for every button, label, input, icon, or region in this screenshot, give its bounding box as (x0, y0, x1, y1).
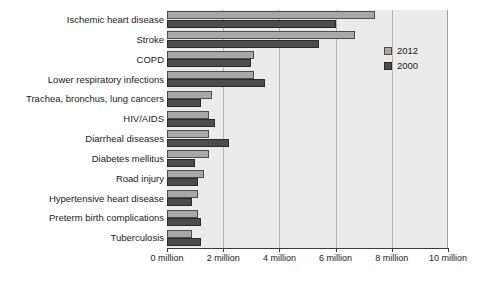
bar-2012-trachea-bronchus-lung-cancers[interactable] (167, 91, 212, 99)
bar-2012-preterm-birth-complications[interactable] (167, 210, 198, 218)
category-label: HIV/AIDS (123, 112, 164, 125)
bar-2012-road-injury[interactable] (167, 170, 204, 178)
chart-row: Diarrheal diseases (0, 129, 482, 149)
chart-row: Diabetes mellitus (0, 149, 482, 169)
category-label: Stroke (137, 33, 164, 46)
category-label: COPD (137, 53, 164, 66)
bar-2012-hypertensive-heart-disease[interactable] (167, 190, 198, 198)
bar-2000-lower-respiratory-infections[interactable] (167, 79, 265, 87)
bar-2012-copd[interactable] (167, 51, 254, 59)
chart-row: HIV/AIDS (0, 109, 482, 129)
bar-2012-diarrheal-diseases[interactable] (167, 130, 209, 138)
chart-row: Trachea, bronchus, lung cancers (0, 89, 482, 109)
bar-2000-diabetes-mellitus[interactable] (167, 159, 195, 167)
bar-2000-trachea-bronchus-lung-cancers[interactable] (167, 99, 201, 107)
bar-2000-ischemic-heart-disease[interactable] (167, 20, 336, 28)
bar-2012-stroke[interactable] (167, 31, 355, 39)
bar-2000-hypertensive-heart-disease[interactable] (167, 198, 192, 206)
dark-gray-swatch-icon (384, 62, 392, 70)
legend-item-2012[interactable]: 2012 (384, 44, 418, 57)
chart-row: Hypertensive heart disease (0, 189, 482, 209)
x-axis-tick-label: 4 million (263, 253, 296, 264)
bar-2000-road-injury[interactable] (167, 178, 198, 186)
chart-legend: 2012 2000 (384, 44, 418, 74)
x-axis-tick-label: 8 million (375, 253, 408, 264)
x-axis-tick (223, 248, 224, 252)
x-axis-tick (279, 248, 280, 252)
legend-item-label: 2012 (397, 44, 418, 57)
bar-2012-hiv-aids[interactable] (167, 111, 209, 119)
x-axis-tick-label: 10 million (429, 253, 467, 264)
bar-chart-figure: 0 million2 million4 million6 million8 mi… (0, 0, 482, 281)
category-label: Ischemic heart disease (67, 13, 164, 26)
x-axis-tick-label: 0 million (150, 253, 183, 264)
x-axis-tick-label: 6 million (319, 253, 352, 264)
chart-row: Ischemic heart disease (0, 10, 482, 30)
bar-2000-preterm-birth-complications[interactable] (167, 218, 201, 226)
bar-2000-tuberculosis[interactable] (167, 238, 201, 246)
bar-2000-copd[interactable] (167, 59, 251, 67)
bar-2000-hiv-aids[interactable] (167, 119, 215, 127)
bar-2000-diarrheal-diseases[interactable] (167, 139, 229, 147)
x-axis-line (167, 248, 449, 249)
chart-row: Preterm birth complications (0, 208, 482, 228)
x-axis-tick (336, 248, 337, 252)
category-label: Lower respiratory infections (48, 73, 164, 86)
chart-row: Road injury (0, 169, 482, 189)
x-axis-tick (392, 248, 393, 252)
x-axis-tick-label: 2 million (207, 253, 240, 264)
category-label: Road injury (116, 172, 164, 185)
legend-item-label: 2000 (397, 59, 418, 72)
bar-2012-diabetes-mellitus[interactable] (167, 150, 209, 158)
category-label: Preterm birth complications (49, 211, 164, 224)
bar-2012-ischemic-heart-disease[interactable] (167, 11, 375, 19)
bar-2012-lower-respiratory-infections[interactable] (167, 71, 254, 79)
bar-2012-tuberculosis[interactable] (167, 230, 192, 238)
light-gray-swatch-icon (384, 47, 392, 55)
x-axis-tick (448, 248, 449, 252)
x-axis-tick (167, 248, 168, 252)
category-label: Tuberculosis (110, 231, 164, 244)
category-label: Diarrheal diseases (85, 132, 164, 145)
category-label: Hypertensive heart disease (49, 192, 164, 205)
legend-item-2000[interactable]: 2000 (384, 59, 418, 72)
chart-row: Tuberculosis (0, 228, 482, 248)
bar-2000-stroke[interactable] (167, 40, 319, 48)
category-label: Diabetes mellitus (92, 152, 164, 165)
category-label: Trachea, bronchus, lung cancers (26, 92, 164, 105)
